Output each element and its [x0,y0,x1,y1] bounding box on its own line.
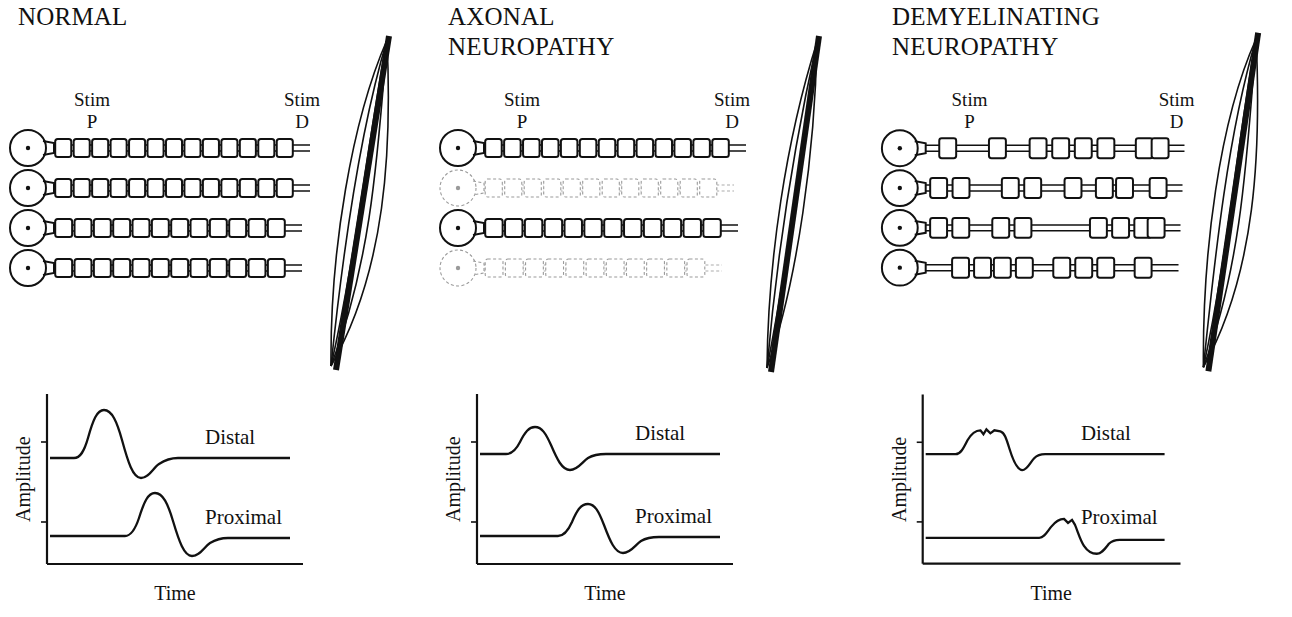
x-axis-label-axonal: Time [584,582,626,604]
stim-p-label-demyelinating: Stim [952,89,988,110]
stim-p-sub-axonal: P [517,111,528,132]
waveform-graph-demyelinating: Amplitude Time Distal Proximal [860,382,1290,617]
nerve-diagram-normal: Stim P Stim D [0,0,430,400]
waveform-graph-axonal: Amplitude Time Distal Proximal [430,382,860,617]
stim-d-sub-normal: D [295,111,309,132]
panel-normal: NORMAL Stim P Stim D Amplitude Time Dist… [0,0,430,617]
nerve-diagram-axonal: Stim P Stim D [430,0,860,400]
axon-row [882,210,1181,246]
axon-row [10,210,302,246]
trace-label-distal-demyelinating: Distal [1081,421,1131,445]
axon-row [10,250,302,286]
x-axis-label-normal: Time [154,582,196,604]
y-axis-label-demyelinating: Amplitude [888,437,911,522]
stim-p-sub-demyelinating: P [964,111,975,132]
stim-p-sub-normal: P [87,111,98,132]
muscle-atrophic-axonal [767,36,819,372]
nerve-diagram-demyelinating: Stim P Stim D [860,0,1290,400]
axon-row [882,130,1185,166]
y-axis-label-normal: Amplitude [12,436,35,522]
trace-label-proximal-axonal: Proximal [635,504,712,528]
stim-d-label-axonal: Stim [714,89,750,110]
axon-row [440,130,746,166]
axon-row [10,170,310,206]
axon-rows-normal [10,130,310,286]
panel-axonal: AXONAL NEUROPATHY Stim P Stim D Amplitud… [430,0,860,617]
axon-row [882,250,1179,286]
stim-d-label-demyelinating: Stim [1159,89,1195,110]
axon-row [882,170,1183,206]
muscle-normal [331,36,389,370]
panel-demyelinating: DEMYELINATING NEUROPATHY Stim P Stim D A… [860,0,1290,617]
axon-row [440,250,722,286]
axon-row [10,130,310,166]
y-axis-label-axonal: Amplitude [442,436,465,522]
stim-d-sub-demyelinating: D [1170,111,1184,132]
axon-row [440,170,734,206]
stim-p-label-axonal: Stim [504,89,540,110]
stim-p-label-normal: Stim [74,89,110,110]
axon-row [440,210,738,246]
trace-label-distal-normal: Distal [205,425,255,449]
x-axis-label-demyelinating: Time [1030,582,1071,604]
muscle-demyelinating [1203,33,1258,371]
stim-d-sub-axonal: D [725,111,739,132]
stim-d-label-normal: Stim [284,89,320,110]
waveform-graph-normal: Amplitude Time Distal Proximal [0,382,430,617]
axon-rows-demyelinating [882,130,1185,285]
trace-label-proximal-demyelinating: Proximal [1081,505,1158,529]
trace-label-distal-axonal: Distal [635,421,685,445]
trace-label-proximal-normal: Proximal [205,505,282,529]
axon-rows-axonal [440,130,746,286]
